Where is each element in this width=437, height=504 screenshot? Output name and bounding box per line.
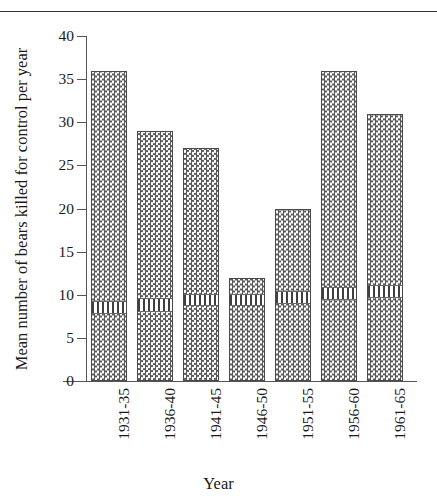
y-axis-tick-label: 35 — [32, 71, 74, 87]
bar-band-marker — [322, 287, 356, 300]
y-axis-tick — [77, 209, 86, 210]
bar — [229, 278, 265, 382]
y-axis-tick-label: 20 — [32, 201, 74, 217]
x-axis-tick-label: 1951-55 — [300, 388, 316, 478]
y-axis-tick — [77, 381, 86, 382]
x-axis-tick-label: 1946-50 — [254, 388, 270, 478]
bar-band-marker — [184, 294, 218, 306]
x-axis-title: Year — [0, 474, 437, 494]
x-axis-tick-label: 1936-40 — [162, 388, 178, 478]
y-axis-title: Mean number of bears killed for control … — [12, 36, 34, 382]
x-axis-tick-label: 1941-45 — [208, 388, 224, 478]
bar — [275, 209, 311, 382]
x-axis-tick-label: 1931-35 — [116, 388, 132, 478]
y-axis-tick-label: 40 — [32, 28, 74, 44]
y-axis-tick-label: 0 — [32, 373, 74, 389]
y-axis-tick — [77, 295, 86, 296]
y-axis-tick-label: 5 — [32, 330, 74, 346]
bar-band-marker — [276, 291, 310, 303]
y-axis-tick — [77, 79, 86, 80]
bar — [321, 71, 357, 382]
bar — [183, 148, 219, 381]
y-axis-tick — [77, 122, 86, 123]
bar-band-marker — [368, 285, 402, 298]
bar-band-marker — [230, 294, 264, 306]
y-axis-tick — [77, 165, 86, 166]
bar — [367, 114, 403, 381]
y-axis-tick-label: 15 — [32, 244, 74, 260]
y-axis-tick — [77, 338, 86, 339]
y-axis-tick-label: 10 — [32, 287, 74, 303]
y-axis-tick — [77, 252, 86, 253]
bar-band-marker — [92, 301, 126, 314]
plot-area — [86, 36, 408, 381]
y-axis-tick-label: 25 — [32, 157, 74, 173]
y-axis-tick-label: 30 — [32, 114, 74, 130]
top-horizontal-rule — [0, 11, 437, 12]
bar-band-marker — [138, 298, 172, 311]
bar-chart-figure: 0510152025303540 1931-351936-401941-4519… — [0, 0, 437, 504]
bar — [137, 131, 173, 381]
bar — [91, 71, 127, 382]
x-axis-tick-label: 1961-65 — [392, 388, 408, 478]
x-axis-tick-label: 1956-60 — [346, 388, 362, 478]
x-axis-line — [63, 381, 417, 382]
y-axis-tick — [77, 36, 86, 37]
